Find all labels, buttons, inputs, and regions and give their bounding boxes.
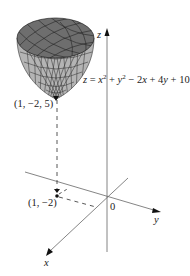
projection-label: (1, −2) [28, 198, 57, 209]
projection-to-y-axis [59, 188, 69, 194]
x-axis [50, 178, 128, 251]
vertex-label: (1, −2, 5) [14, 99, 53, 110]
z-axis-arrow [105, 28, 110, 36]
vertex-point [53, 96, 59, 101]
y-axis-arrow [152, 208, 161, 213]
projection-to-x-axis [59, 197, 96, 207]
z-axis-label: z [97, 30, 101, 41]
y-axis-label: y [154, 215, 159, 226]
paraboloid-surface [17, 17, 95, 99]
origin-label: 0 [110, 202, 115, 213]
surface-equation: z = x2 + y2 − 2x + 4y + 10 [83, 74, 190, 86]
paraboloid-diagram [0, 0, 190, 276]
x-axis-label: x [44, 258, 49, 269]
